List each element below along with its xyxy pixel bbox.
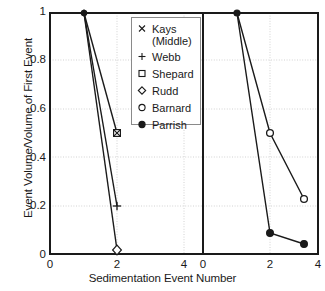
x-tick-label-right-0: 0 xyxy=(193,259,213,271)
legend-label: Parrish xyxy=(152,119,187,131)
legend-item-kays: Kays xyxy=(136,22,176,35)
legend-item-webb: Webb xyxy=(136,50,181,63)
plus-marker-icon xyxy=(136,50,150,63)
marker-start-right xyxy=(234,10,240,16)
legend-label: Shepard xyxy=(152,68,194,80)
marker-shepard-kays-point xyxy=(114,130,121,137)
circle-filled-marker-icon xyxy=(136,118,150,131)
x-axis-label: Sedimentation Event Number xyxy=(0,272,325,284)
chart-legend: Kays (Middle) Webb Shepard Rudd Barn xyxy=(131,17,201,125)
legend-label: Barnard xyxy=(152,102,191,114)
legend-item-rudd: Rudd xyxy=(136,84,178,97)
legend-label: Rudd xyxy=(152,85,178,97)
series-shepard-kays xyxy=(84,13,117,133)
series-barnard xyxy=(237,13,304,199)
circle-open-marker-icon xyxy=(136,101,150,114)
legend-label: Webb xyxy=(152,51,181,63)
marker-webb-point xyxy=(113,202,121,210)
legend-item-parrish: Parrish xyxy=(136,118,187,131)
legend-label-kays-sub: (Middle) xyxy=(152,35,192,47)
square-marker-icon xyxy=(136,67,150,80)
diamond-marker-icon xyxy=(136,84,150,97)
x-tick-label-left-4: 4 xyxy=(174,259,194,271)
legend-label: Kays xyxy=(152,23,176,35)
series-webb xyxy=(84,13,117,206)
chart-figure: Event Volume/Volume of First Event 1 0.8… xyxy=(0,0,325,291)
x-tick-label-left-0: 0 xyxy=(40,259,60,271)
legend-item-barnard: Barnard xyxy=(136,101,191,114)
x-marker-icon xyxy=(136,22,150,35)
legend-item-shepard: Shepard xyxy=(136,67,194,80)
x-tick-label-right-4: 4 xyxy=(308,259,325,271)
x-tick-label-left-2: 2 xyxy=(107,259,127,271)
x-tick-label-right-2: 2 xyxy=(260,259,280,271)
marker-start-left xyxy=(81,10,88,17)
series-rudd xyxy=(84,13,117,250)
